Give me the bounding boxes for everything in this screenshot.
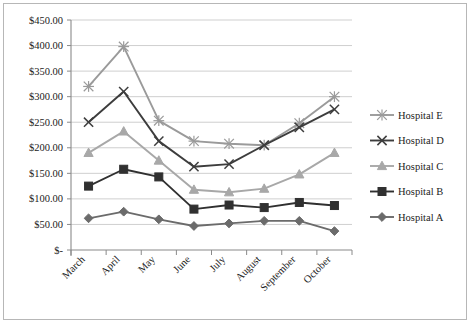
- legend-item-hospital-b[interactable]: Hospital B: [370, 186, 443, 197]
- data-point-triangle: [330, 148, 339, 156]
- legend-label: Hospital A: [398, 212, 444, 223]
- x-axis-label: April: [99, 254, 123, 278]
- legend-item-hospital-a[interactable]: Hospital A: [370, 212, 444, 223]
- data-point-asterisk: [189, 136, 200, 147]
- y-axis-label: $100.00: [29, 193, 63, 204]
- x-axis-label: September: [258, 253, 298, 293]
- x-axis-label: June: [171, 253, 193, 275]
- y-axis-label: $450.00: [29, 15, 63, 26]
- data-point-diamond: [190, 222, 199, 231]
- data-point-diamond: [84, 214, 93, 223]
- series-hospital-a: [84, 207, 339, 235]
- data-point-diamond: [295, 216, 304, 225]
- data-point-diamond: [225, 219, 234, 228]
- data-point-square: [295, 198, 303, 206]
- data-point-asterisk: [153, 115, 164, 126]
- data-point-asterisk: [329, 91, 340, 102]
- data-point-square: [330, 202, 338, 210]
- data-point-square: [85, 182, 93, 190]
- data-point-x: [330, 105, 339, 114]
- data-point-diamond: [119, 207, 128, 216]
- data-point-square: [225, 201, 233, 209]
- data-point-square: [260, 204, 268, 212]
- x-axis-label: October: [301, 253, 333, 285]
- y-axis-label: $400.00: [29, 40, 63, 51]
- data-point-square: [120, 165, 128, 173]
- x-axis-label: August: [233, 254, 262, 283]
- y-axis-label: $-: [54, 245, 63, 256]
- legend-item-hospital-d[interactable]: Hospital D: [370, 135, 444, 146]
- legend-marker-diamond-icon: [378, 213, 387, 222]
- legend-item-hospital-e[interactable]: Hospital E: [370, 110, 443, 121]
- chart-screenshot: $-$50.00$100.00$150.00$200.00$250.00$300…: [0, 0, 473, 326]
- x-axis-label: March: [60, 253, 88, 281]
- data-point-diamond: [330, 227, 339, 236]
- line-chart: $-$50.00$100.00$150.00$200.00$250.00$300…: [0, 0, 473, 326]
- data-point-asterisk: [83, 81, 94, 92]
- series-hospital-c: [84, 127, 339, 196]
- y-axis-label: $50.00: [34, 219, 63, 230]
- data-point-asterisk: [224, 138, 235, 149]
- data-point-asterisk: [118, 41, 129, 52]
- data-point-x: [154, 137, 163, 146]
- legend-label: Hospital D: [398, 135, 444, 146]
- y-axis-label: $350.00: [29, 66, 63, 77]
- data-point-square: [190, 205, 198, 213]
- x-axis-label: May: [136, 253, 158, 275]
- data-point-diamond: [260, 216, 269, 225]
- x-axis-label: July: [207, 253, 228, 274]
- data-point-x: [119, 87, 128, 96]
- y-axis-label: $200.00: [29, 142, 63, 153]
- y-axis-label: $250.00: [29, 117, 63, 128]
- y-axis-label: $300.00: [29, 91, 63, 102]
- legend-label: Hospital B: [398, 186, 443, 197]
- data-point-diamond: [154, 215, 163, 224]
- legend-item-hospital-c[interactable]: Hospital C: [370, 161, 443, 172]
- legend-marker-asterisk-icon: [377, 110, 388, 121]
- legend-label: Hospital C: [398, 161, 443, 172]
- data-point-square: [155, 173, 163, 181]
- y-axis-label: $150.00: [29, 168, 63, 179]
- data-point-triangle: [119, 127, 128, 135]
- legend-label: Hospital E: [398, 110, 443, 121]
- data-point-triangle: [84, 148, 93, 156]
- legend-marker-square-icon: [378, 188, 386, 196]
